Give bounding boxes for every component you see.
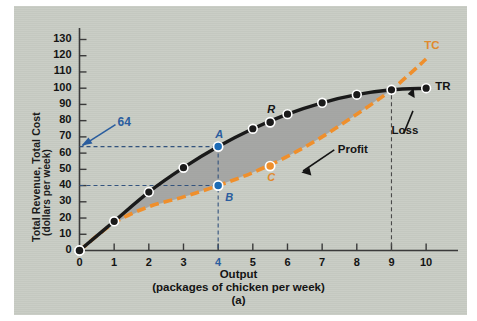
tr-point-x10 — [422, 84, 431, 93]
figure-root: Total Revenue, Total Cost (dollars per w… — [0, 0, 477, 321]
y-tick-label-60: 60 — [38, 146, 72, 158]
tr-point-x8 — [352, 90, 361, 99]
tr-point-x7 — [318, 98, 327, 107]
callout-64-arrow-head — [82, 138, 93, 146]
y-tick-label-10: 10 — [38, 227, 72, 239]
callout-profit-label: Profit — [338, 143, 368, 155]
tr-point-x1 — [110, 217, 119, 226]
tr-point-x3 — [179, 163, 188, 172]
marker-label-R: R — [267, 103, 275, 115]
x-tick-label-6: 6 — [277, 256, 297, 268]
marker-R[interactable] — [266, 118, 275, 127]
y-tick-label-110: 110 — [38, 64, 72, 76]
x-axis-title-main: Output — [0, 268, 477, 280]
callout-64-label: 64 — [118, 115, 131, 129]
y-tick-label-50: 50 — [38, 162, 72, 174]
y-tick-label-0: 0 — [38, 243, 72, 255]
y-tick-label-100: 100 — [38, 81, 72, 93]
tr-point-origin — [75, 246, 84, 255]
x-tick-label-0: 0 — [70, 256, 90, 268]
marker-label-B: B — [225, 191, 233, 203]
marker-label-C: C — [267, 171, 275, 183]
series-label-tr: TR — [435, 80, 450, 92]
y-tick-label-80: 80 — [38, 113, 72, 125]
x-tick-label-5: 5 — [243, 256, 263, 268]
callout-profit-arrow-line — [303, 150, 334, 171]
marker-A[interactable] — [214, 142, 223, 151]
y-tick-label-30: 30 — [38, 194, 72, 206]
tr-point-x6 — [283, 110, 292, 119]
y-tick-label-70: 70 — [38, 129, 72, 141]
callout-loss-label: Loss — [391, 124, 418, 136]
x-tick-label-7: 7 — [312, 256, 332, 268]
x-tick-label-1: 1 — [104, 256, 124, 268]
tr-point-x9 — [387, 85, 396, 94]
tr-point-x2 — [144, 188, 153, 197]
figure-sublabel: (a) — [0, 294, 477, 306]
x-tick-label-2: 2 — [139, 256, 159, 268]
y-tick-label-130: 130 — [38, 32, 72, 44]
y-tick-label-20: 20 — [38, 211, 72, 223]
tr-point-x5 — [248, 124, 257, 133]
x-tick-label-9: 9 — [381, 256, 401, 268]
x-tick-label-4: 4 — [208, 256, 228, 268]
x-tick-label-10: 10 — [416, 256, 436, 268]
marker-C[interactable] — [266, 161, 275, 170]
x-axis-title-units: (packages of chicken per week) — [0, 281, 477, 293]
y-tick-label-90: 90 — [38, 97, 72, 109]
y-tick-label-40: 40 — [38, 178, 72, 190]
x-tick-label-3: 3 — [173, 256, 193, 268]
series-label-tc: TC — [424, 39, 439, 51]
x-tick-label-8: 8 — [347, 256, 367, 268]
y-tick-label-120: 120 — [38, 48, 72, 60]
marker-B[interactable] — [214, 181, 223, 190]
marker-label-A: A — [215, 128, 223, 140]
